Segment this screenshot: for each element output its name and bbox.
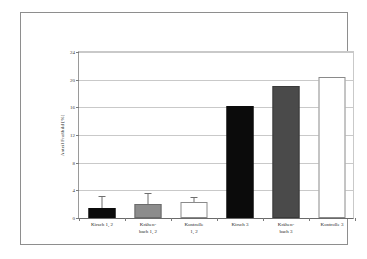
x-tick-mark [263,218,264,221]
y-tick-label: 20 [70,77,75,82]
y-tick-label: 0 [73,216,76,221]
y-tick-label: 16 [70,105,75,110]
bar[interactable] [135,204,162,218]
chart-figure: Anteil Fraßbild [%] 04812162024 Kirsch 1… [0,0,367,259]
y-axis-title-text: Anteil Fraßbild [%] [61,114,66,155]
bar[interactable] [273,86,300,218]
bar-slot: Kontrolle 3 [309,52,355,218]
error-bar-cap [191,197,198,198]
y-tick-label: 4 [73,188,76,193]
bar-slot: Kirsch 1, 2 [79,52,125,218]
x-tick-label: Krähen- bach 3 [263,222,309,235]
bar[interactable] [181,202,208,218]
x-tick-mark [309,218,310,221]
error-bar [194,198,195,202]
bar[interactable] [319,77,346,218]
bar-slot: Krähen- bach 1, 2 [125,52,171,218]
bar-slot: Kirsch 3 [217,52,263,218]
y-axis-title: Anteil Fraßbild [%] [57,51,69,219]
x-tick-mark [217,218,218,221]
y-tick-label: 12 [70,133,75,138]
error-bar [102,197,103,208]
gridline [79,218,353,219]
x-tick-label: Kontrolle 1, 2 [171,222,217,235]
bar[interactable] [227,106,254,218]
bar-slot: Krähen- bach 3 [263,52,309,218]
x-tick-mark [171,218,172,221]
x-tick-mark [355,218,356,221]
x-tick-label: Krähen- bach 1, 2 [125,222,171,235]
figure-frame: Anteil Fraßbild [%] 04812162024 Kirsch 1… [20,12,348,245]
x-tick-mark [79,218,80,221]
x-tick-label: Kontrolle 3 [309,222,355,229]
bar-slot: Kontrolle 1, 2 [171,52,217,218]
y-tick-label: 8 [73,160,76,165]
error-bar-cap [145,193,152,194]
y-tick-label: 24 [70,50,75,55]
x-tick-label: Kirsch 1, 2 [79,222,125,229]
plot-area: 04812162024 Kirsch 1, 2Krähen- bach 1, 2… [78,51,354,219]
x-tick-label: Kirsch 3 [217,222,263,229]
error-bar-cap [99,196,106,197]
bar[interactable] [89,208,116,219]
error-bar [148,194,149,204]
x-tick-mark [125,218,126,221]
